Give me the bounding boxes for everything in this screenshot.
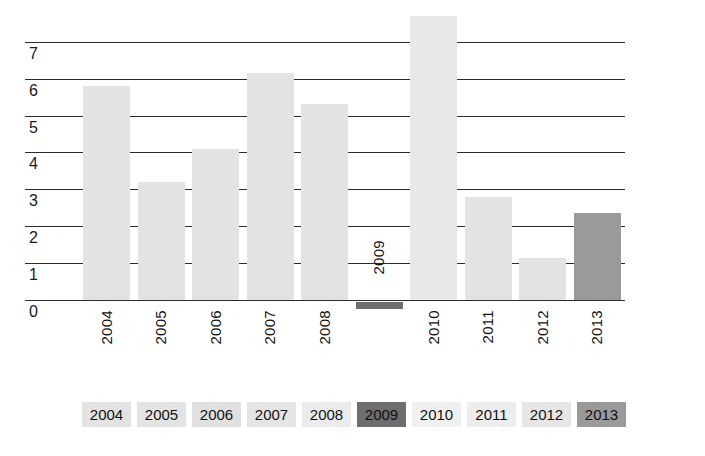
bar-2008[interactable] [301, 104, 348, 300]
x-tick-label-2005: 2005 [153, 310, 168, 345]
x-tick-label-2010: 2010 [426, 310, 441, 345]
x-tick-label-2007: 2007 [262, 310, 277, 345]
x-tick-label-2006: 2006 [208, 310, 223, 345]
x-axis-tick-labels: 200420052006200720082010201120122013 [25, 310, 625, 370]
legend-item-2007[interactable]: 2007 [247, 402, 296, 427]
legend-item-2013[interactable]: 2013 [577, 402, 626, 427]
bar-2007[interactable] [247, 73, 294, 300]
bar-2012[interactable] [519, 258, 566, 300]
x-tick-label-2012: 2012 [535, 310, 550, 345]
bar-2011[interactable] [465, 197, 512, 300]
legend-item-2010[interactable]: 2010 [412, 402, 461, 427]
legend-item-2005[interactable]: 2005 [137, 402, 186, 427]
legend-item-2011[interactable]: 2011 [467, 402, 516, 427]
x-tick-label-2011: 2011 [480, 310, 495, 343]
legend-item-2008[interactable]: 2008 [302, 402, 351, 427]
bar-2005[interactable] [138, 182, 185, 300]
x-tick-label-2008: 2008 [317, 310, 332, 345]
x-tick-label-2013: 2013 [589, 310, 604, 345]
bar-2010[interactable] [410, 16, 457, 300]
in-plot-label-2009: 2009 [371, 240, 386, 275]
bar-2004[interactable] [83, 86, 130, 300]
bar-2006[interactable] [192, 149, 239, 300]
legend-item-2012[interactable]: 2012 [522, 402, 571, 427]
legend-item-2009[interactable]: 2009 [357, 402, 406, 427]
bars-layer: 2009 [25, 8, 625, 308]
chart-legend: 2004200520062007200820092010201120122013 [82, 400, 624, 428]
legend-item-2004[interactable]: 2004 [82, 402, 131, 427]
legend-item-2006[interactable]: 2006 [192, 402, 241, 427]
bar-chart-figure: 01234567 2009 20042005200620072008201020… [0, 0, 705, 456]
bar-2013[interactable] [574, 213, 621, 300]
plot-area: 01234567 2009 [25, 8, 625, 308]
x-tick-label-2004: 2004 [99, 310, 114, 345]
bar-2009[interactable] [356, 302, 403, 309]
